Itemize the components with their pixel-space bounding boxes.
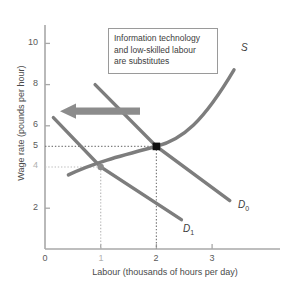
x-axis-title: Labour (thousands of hours per day): [45, 267, 285, 277]
curve-label-demand-initial-sub: 0: [245, 205, 249, 212]
annotation-line-2: and low-skilled labour: [114, 45, 212, 57]
curve-label-supply: S: [241, 42, 248, 53]
curve-label-demand-shifted: D1: [183, 223, 194, 236]
annotation-callout: Information technology and low-skilled l…: [108, 28, 218, 74]
chart-figure: 10 8 6 5 4 2 0 1 2 3 Wage rate (pounds p…: [0, 0, 285, 284]
equilibrium-new-marker: [98, 164, 104, 170]
y-tick-label-2: 2: [18, 202, 38, 212]
dropline-new: [45, 167, 101, 249]
x-tick-label-0: 0: [37, 253, 53, 263]
x-tick-label-3: 3: [204, 253, 220, 263]
annotation-line-3: are substitutes: [114, 56, 212, 68]
y-axis-title: Wage rate (pounds per hour): [16, 48, 26, 198]
curve-label-demand-shifted-sub: 1: [190, 229, 194, 236]
demand-curve-D1: [53, 118, 181, 220]
demand-curve-D0: [95, 85, 230, 201]
y-tick-label-10: 10: [18, 37, 38, 47]
curve-label-supply-text: S: [241, 42, 248, 53]
curve-label-demand-initial: D0: [238, 199, 249, 212]
x-tick-label-2: 2: [148, 253, 164, 263]
x-tick-label-1: 1: [93, 253, 109, 263]
equilibrium-initial-marker: [153, 143, 161, 151]
annotation-line-1: Information technology: [114, 33, 212, 45]
